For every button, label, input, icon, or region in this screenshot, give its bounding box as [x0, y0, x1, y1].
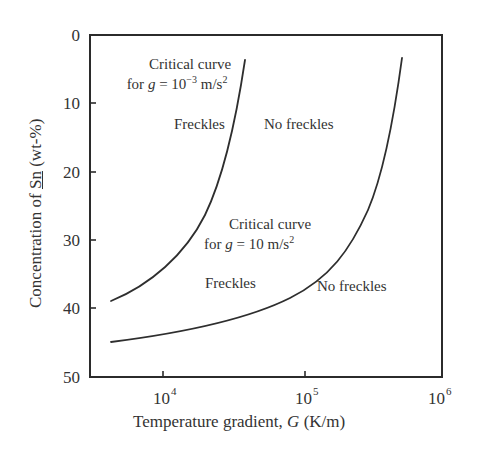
curve1-label-unit-exp: 2: [222, 74, 227, 85]
curve1-label-line1: Critical curve: [137, 57, 231, 72]
x-tick-base: 10: [295, 389, 312, 408]
x-tick-exponent: 5: [313, 385, 319, 397]
region-freckles-2: Freckles: [205, 276, 256, 291]
x-tick-exponent: 4: [171, 385, 177, 397]
x-tick-label: 105: [295, 388, 319, 407]
x-tick-base: 10: [153, 389, 170, 408]
y-axis-title-unit: (wt-%): [26, 119, 45, 171]
curve2-label-var: g: [225, 236, 233, 252]
x-axis-title-text: Temperature gradient,: [133, 412, 287, 431]
curve2-label-eq: = 10 m/s: [233, 236, 289, 252]
y-tick-label: 50: [50, 369, 80, 386]
y-axis-title-element: Sn: [26, 171, 45, 189]
curve1-label-eq: = 10: [155, 76, 186, 92]
y-tick-label: 30: [50, 232, 80, 249]
y-tick-label: 20: [50, 164, 80, 181]
region-no-freckles-1: No freckles: [264, 117, 334, 132]
y-tick-label: 40: [50, 300, 80, 317]
curve2-label-for: for: [204, 236, 225, 252]
region-no-freckles-2: No freckles: [317, 279, 387, 294]
curve1-label-line2: for g = 10−3 m/s2: [123, 75, 231, 92]
critical-curve-g-1e-3: [111, 60, 245, 301]
x-tick-base: 10: [428, 389, 445, 408]
x-axis-title: Temperature gradient, G (K/m): [133, 413, 345, 430]
curve2-label-line1: Critical curve: [204, 217, 311, 232]
x-tick-label: 104: [153, 388, 177, 407]
x-tick-exponent: 6: [446, 385, 452, 397]
curve1-label: Critical curve for g = 10−3 m/s2: [137, 57, 231, 92]
curve1-label-exp: −3: [186, 74, 197, 85]
curve1-label-for: for: [127, 76, 148, 92]
y-tick-label: 0: [50, 27, 80, 44]
curve2-label-unit-exp: 2: [289, 234, 294, 245]
curve1-label-unit: m/s: [197, 76, 222, 92]
region-freckles-1: Freckles: [174, 117, 225, 132]
x-axis-title-variable: G: [287, 412, 299, 431]
y-axis-title: Concentration of Sn (wt-%): [27, 119, 44, 308]
y-axis-title-text: Concentration of: [26, 189, 45, 308]
curve2-label: Critical curve for g = 10 m/s2: [204, 217, 311, 252]
critical-curve-g-10: [111, 58, 402, 342]
x-tick-label: 106: [428, 388, 452, 407]
curve2-label-line2: for g = 10 m/s2: [204, 235, 311, 252]
y-tick-label: 10: [50, 95, 80, 112]
x-axis-title-unit: (K/m): [299, 412, 345, 431]
